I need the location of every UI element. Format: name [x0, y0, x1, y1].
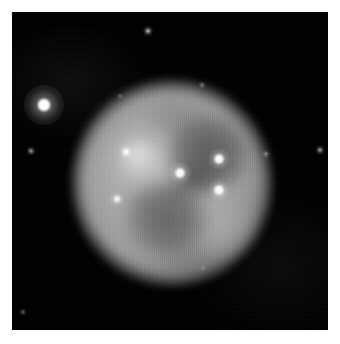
field-star-east-edge — [318, 148, 322, 152]
dark-lane-central — [156, 151, 226, 214]
nebula-bright-rim — [78, 86, 268, 280]
field-star-north-faint-glow — [117, 93, 124, 100]
sky-background-noise — [12, 12, 328, 330]
central-star-glow — [169, 162, 191, 184]
film-grain-overlay — [12, 12, 328, 330]
star-west-upper-glow — [119, 145, 134, 160]
field-star-east-edge-glow — [315, 145, 325, 155]
field-star-bright-west — [38, 99, 50, 111]
star-southeast-inner — [215, 186, 224, 195]
bright-lobe-southwest — [108, 200, 186, 262]
star-west-lower — [114, 196, 120, 202]
field-star-bright-west-glow — [24, 85, 64, 125]
dark-cavity-northeast — [168, 116, 246, 192]
field-star-north-faint — [119, 95, 121, 97]
star-west-upper — [123, 149, 129, 155]
nebula-outer-halo — [72, 80, 272, 286]
star-southeast-inner-glow — [209, 180, 230, 201]
nebula-mottling-south — [152, 244, 232, 284]
field-star-southwest-corner-glow — [19, 308, 27, 316]
field-star-top — [146, 29, 150, 33]
astronomy-figure — [0, 0, 340, 344]
field-star-east-rim-glow — [262, 150, 271, 159]
nebula-mottling-north — [140, 98, 212, 142]
dark-cavity-southwest — [124, 182, 208, 256]
scan-stripe-artifact — [67, 74, 279, 292]
sky-field — [12, 12, 328, 330]
nebula-main-shell — [82, 90, 262, 276]
field-star-southwest-corner — [22, 311, 25, 314]
star-north-rim-glow — [198, 81, 206, 89]
nebula-disk — [12, 12, 328, 330]
central-star — [176, 169, 185, 178]
bright-knot-west-core — [120, 140, 154, 170]
star-northeast-inner — [215, 155, 224, 164]
field-star-top-glow — [143, 26, 154, 37]
field-star-west-faint — [29, 149, 33, 153]
field-star-southeast-faint-glow — [200, 265, 207, 272]
bright-lobe-southeast — [188, 198, 254, 254]
field-star-southeast-faint — [202, 267, 204, 269]
field-star-west-faint-glow — [26, 146, 36, 156]
star-west-lower-glow — [110, 192, 125, 207]
field-star-east-rim — [265, 153, 268, 156]
bright-knot-west — [104, 126, 178, 192]
star-northeast-inner-glow — [209, 149, 230, 170]
star-north-rim — [201, 84, 204, 87]
